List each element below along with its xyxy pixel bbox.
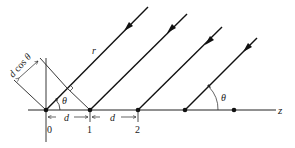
array-diagram: z r d cos θ θ θ: [0, 0, 295, 148]
ray-arrowheads: [124, 22, 252, 52]
spacing-label-2: d: [110, 112, 116, 123]
perpendicular-line: [67, 88, 90, 110]
right-angle-marker: [70, 85, 73, 91]
element-label-2: 2: [135, 124, 140, 135]
diagram-canvas: z r d cos θ θ θ: [0, 0, 295, 148]
element-label-0: 0: [47, 124, 52, 135]
path-diff-label: d cos θ: [6, 51, 33, 79]
angle-arc-0: [56, 100, 60, 110]
angle-arc-3: [209, 87, 218, 110]
z-axis-label: z: [277, 104, 283, 116]
element-4: [232, 108, 237, 113]
spacing-label-1: d: [64, 112, 70, 123]
path-diff-top-line: [40, 58, 67, 88]
element-3: [183, 108, 188, 113]
angle-label-0: θ: [62, 95, 67, 106]
element-label-1: 1: [87, 124, 92, 135]
element-0: [44, 108, 49, 113]
ray-label: r: [92, 45, 96, 56]
arrow-icon: [205, 36, 214, 45]
path-diff-line: [14, 80, 46, 110]
angle-label-3: θ: [221, 92, 226, 103]
